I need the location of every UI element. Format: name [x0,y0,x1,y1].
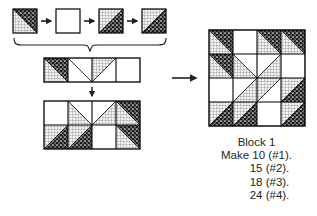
unit-2 [56,9,80,33]
asm-r1c2 [68,101,92,125]
pieced-strip-row [44,58,140,82]
blk-r2c3 [257,54,281,78]
blk-r4c1 [209,102,233,126]
asm-r1c4 [116,101,140,125]
blk-r1c2 [233,30,257,54]
caption-make-line-3: 18 (#3). [196,176,317,189]
blk-r1c1 [209,30,233,54]
asm-r2c1 [44,125,68,149]
caption-block-label: Block 1 [196,136,317,149]
blk-r2c1 [209,54,233,78]
unit-4 [142,9,166,33]
asm-r2c2 [68,125,92,149]
asm-r2c4 [116,125,140,149]
blk-r4c4 [281,102,305,126]
finished-block-1 [209,30,305,126]
unit-3 [99,9,123,33]
blk-r4c2 [233,102,257,126]
blk-r2c2 [233,54,257,78]
strip-cell-4 [116,58,140,82]
strip-cell-3 [92,58,116,82]
asm-r1c3 [92,101,116,125]
strip-cell-1 [44,58,68,82]
blk-r1c4 [281,30,305,54]
blk-r3c3 [257,78,281,102]
blk-r2c4 [281,54,305,78]
block-caption: Block 1 Make 10 (#1). 15 (#2). 18 (#3). … [196,136,317,202]
unit-squares-row [13,9,166,33]
strip-cell-2 [68,58,92,82]
unit-1 [13,9,37,33]
blk-r3c4 [281,78,305,102]
blk-r4c3 [257,102,281,126]
partial-assembly-grid [44,101,140,149]
blk-r1c3 [257,30,281,54]
caption-make-line-4: 24 (#4). [196,189,317,202]
caption-make-line-2: 15 (#2). [196,162,317,175]
caption-make-line-1: Make 10 (#1). [196,149,317,162]
blk-r3c1 [209,78,233,102]
grouping-brace [14,38,166,51]
asm-r1c1 [44,101,68,125]
asm-r2c3 [92,125,116,149]
blk-r3c2 [233,78,257,102]
quilt-block-diagram-page: Block 1 Make 10 (#1). 15 (#2). 18 (#3). … [0,0,317,216]
